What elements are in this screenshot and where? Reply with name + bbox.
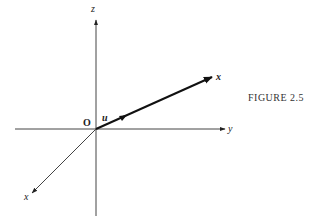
vector-x-label: x: [215, 71, 221, 82]
figure-caption: FIGURE 2.5: [248, 92, 304, 103]
z-axis-label: z: [90, 3, 95, 14]
origin-label: O: [83, 117, 91, 128]
unit-vector-label: u: [102, 112, 108, 123]
coordinate-diagram: z y x x u O: [0, 0, 322, 216]
vector-x: [96, 77, 212, 129]
x-axis-label: x: [23, 191, 29, 202]
x-axis: [32, 129, 96, 193]
y-axis-label: y: [227, 123, 233, 134]
